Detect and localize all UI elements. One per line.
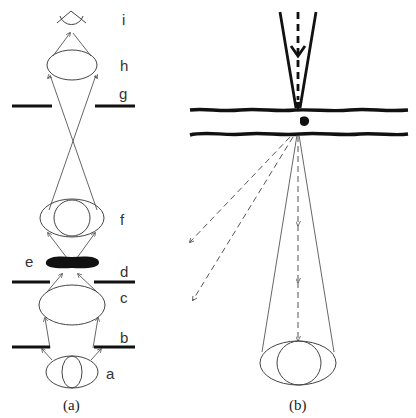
label-c: c [120,289,128,306]
surface-top [190,109,408,110]
ray-line [73,33,91,56]
label-e: e [25,253,33,270]
condenser-lens [39,285,105,325]
optical-diagram: i h g f e d c [0,0,416,418]
ray-line [53,33,70,56]
label-g: g [119,85,127,102]
collecting-lens-outer [260,341,336,385]
label-h: h [120,57,128,74]
specimen-blob [46,257,99,269]
ray-line [49,75,96,210]
light-source-outer [46,356,98,388]
collecting-lens-inner [277,341,321,385]
surface-bottom [190,133,408,135]
label-b: b [120,329,128,346]
cone-edge-right [299,135,334,352]
caption-b: (b) [289,397,307,414]
probe-tip [280,12,316,112]
panel-b: (b) [190,12,408,414]
label-i: i [122,11,125,28]
scattered-ray [193,137,293,300]
label-d: d [120,263,128,280]
panel-a: i h g f e d c [12,11,135,414]
objective-lens-outer [40,199,104,237]
label-a: a [106,365,115,382]
scattered-ray [190,137,290,242]
caption-a: (a) [63,397,80,414]
light-source-inner [62,356,82,388]
ray-line [50,75,97,210]
cone-edge-left [262,135,297,352]
particle [300,117,309,126]
label-f: f [120,211,125,228]
objective-lens-inner [54,200,90,236]
eye-icon [57,11,86,25]
